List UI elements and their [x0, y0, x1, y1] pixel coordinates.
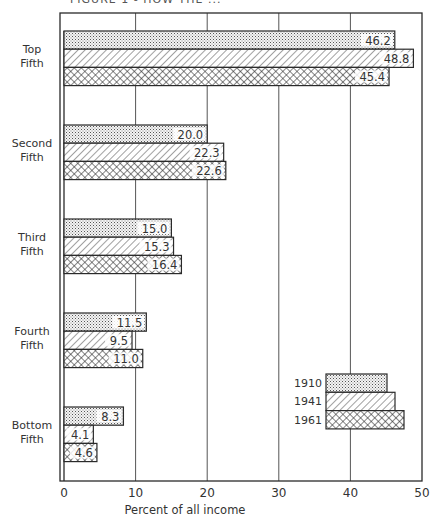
value-label: 16.4	[152, 258, 178, 272]
category-label: Second	[12, 137, 52, 150]
category-label: Fifth	[20, 57, 44, 70]
bar-1941	[64, 49, 413, 67]
x-tick-label: 30	[271, 486, 286, 500]
category-label: Top	[22, 43, 42, 56]
category-label: Fourth	[14, 325, 49, 338]
category-label: Fifth	[20, 245, 44, 258]
value-label: 15.3	[144, 240, 170, 254]
legend-label: 1910	[294, 377, 322, 390]
value-label: 15.0	[142, 222, 168, 236]
bar-group-fourth-fifth: 11.59.511.0	[64, 313, 146, 368]
legend-label: 1961	[294, 414, 322, 427]
value-label: 22.3	[194, 146, 220, 160]
x-tick-label: 0	[60, 486, 68, 500]
value-label: 20.0	[178, 128, 204, 142]
value-label: 11.0	[113, 352, 139, 366]
category-label: Fifth	[20, 151, 44, 164]
value-label: 4.6	[75, 446, 93, 460]
x-tick-label: 50	[414, 486, 429, 500]
x-axis-label: Percent of all income	[125, 503, 246, 517]
bar-group-bottom-fifth: 8.34.14.6	[64, 407, 123, 462]
category-label: Fifth	[20, 433, 44, 446]
value-label: 8.3	[101, 410, 119, 424]
value-label: 4.1	[71, 428, 89, 442]
legend-label: 1941	[294, 395, 322, 408]
category-label: Third	[17, 231, 46, 244]
category-labels: TopFifthSecondFifthThirdFifthFourthFifth…	[12, 43, 52, 446]
value-label: 11.5	[117, 316, 143, 330]
category-label: Fifth	[20, 339, 44, 352]
value-label: 45.4	[359, 70, 385, 84]
category-label: Bottom	[12, 419, 52, 432]
legend: 191019411961	[294, 374, 404, 429]
bar-group-second-fifth: 20.022.322.6	[64, 125, 226, 180]
value-label: 48.8	[384, 52, 410, 66]
income-distribution-bar-chart: 46.248.845.420.022.322.615.015.316.411.5…	[0, 0, 443, 521]
legend-swatch-1910	[326, 374, 387, 392]
bar-group-third-fifth: 15.015.316.4	[64, 219, 181, 274]
value-label: 46.2	[365, 34, 391, 48]
bar-group-top-fifth: 46.248.845.4	[64, 31, 413, 86]
x-tick-label: 20	[200, 486, 215, 500]
x-tick-label: 40	[343, 486, 358, 500]
bar-1961	[64, 67, 389, 85]
x-axis-ticks: 01020304050	[60, 486, 429, 500]
x-tick-label: 10	[128, 486, 143, 500]
legend-swatch-1941	[326, 392, 395, 410]
bar-1910	[64, 31, 395, 49]
value-label: 22.6	[196, 164, 222, 178]
legend-swatch-1961	[326, 411, 404, 429]
value-label: 9.5	[110, 334, 128, 348]
